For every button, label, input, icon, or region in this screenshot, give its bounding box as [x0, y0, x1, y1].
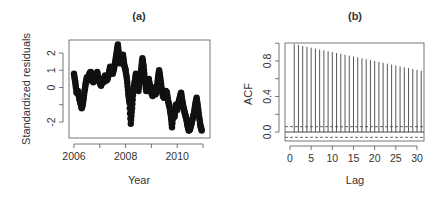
panel-a-x-axis: 200620082010: [62, 144, 203, 162]
x-tick-label: 2008: [114, 150, 138, 162]
y-tick-label: 0.0: [261, 125, 273, 140]
panel-a-y-axis: -2012: [45, 50, 63, 127]
panel-b-y-label: ACF: [242, 83, 254, 105]
x-tick-label: 25: [390, 152, 402, 164]
panel-b-x-axis: 051015202530: [287, 146, 423, 164]
x-tick-label: 2010: [166, 150, 190, 162]
x-tick-label: 2006: [62, 150, 86, 162]
panel-a-y-label: Standardized residuals: [20, 33, 32, 145]
panel-b-x-label: Lag: [346, 174, 364, 186]
panel-a-x-label: Year: [128, 174, 151, 186]
x-tick-label: 0: [287, 152, 293, 164]
panel-b-y-axis: 0.00.40.8: [261, 43, 279, 139]
x-tick-label: 30: [411, 152, 423, 164]
panel-b-confidence-band: [285, 127, 424, 138]
y-tick-label: 1: [45, 67, 57, 73]
panel-b-acf-plot: (b) 051015202530 0.00.40.8 Lag ACF: [242, 10, 424, 186]
x-tick-label: 10: [326, 152, 338, 164]
panel-a-series: [71, 41, 205, 134]
x-tick-label: 5: [308, 152, 314, 164]
y-tick-label: 2: [45, 50, 57, 56]
panel-b-title: (b): [348, 10, 362, 22]
x-tick-label: 15: [348, 152, 360, 164]
y-tick-label: 0: [45, 84, 57, 90]
data-point: [199, 127, 205, 133]
panel-a-title: (a): [132, 10, 146, 22]
y-tick-label: 0.8: [261, 54, 273, 69]
y-tick-label: 0.4: [261, 89, 273, 104]
figure: (a) 200620082010 -2012 Year Standardized…: [0, 0, 447, 203]
panel-b-stems: [294, 44, 421, 132]
panel-a-residuals-plot: (a) 200620082010 -2012 Year Standardized…: [20, 10, 210, 186]
x-tick-label: 20: [369, 152, 381, 164]
y-tick-label: -2: [45, 117, 57, 126]
